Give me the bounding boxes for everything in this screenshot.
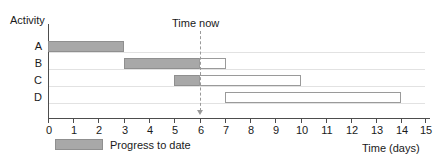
tick-mark-9 (275, 119, 276, 123)
task-bar-b-progress[interactable] (124, 58, 200, 69)
legend-swatch-progress (55, 139, 103, 150)
y-axis-line (48, 24, 49, 118)
tick-label-8: 8 (241, 124, 261, 136)
tick-mark-6 (200, 119, 201, 123)
tick-mark-2 (98, 119, 99, 123)
tick-label-0: 0 (39, 124, 59, 136)
grid-line-c (48, 86, 425, 87)
time-now-label: Time now (172, 17, 219, 29)
tick-mark-10 (301, 119, 302, 123)
task-bar-b-remaining[interactable] (199, 58, 226, 69)
x-axis-line (48, 118, 430, 119)
tick-label-3: 3 (115, 124, 135, 136)
category-label-d: D (24, 91, 42, 103)
tick-label-7: 7 (216, 124, 236, 136)
tick-label-15: 15 (416, 124, 436, 136)
grid-line-b (48, 69, 425, 70)
tick-label-11: 11 (317, 124, 337, 136)
gantt-chart: Activity A B C D Time now 0 1 2 3 4 5 6 (0, 0, 446, 158)
legend-label-progress: Progress to date (110, 139, 191, 151)
tick-label-4: 4 (140, 124, 160, 136)
tick-label-13: 13 (367, 124, 387, 136)
task-bar-c-progress[interactable] (174, 75, 200, 86)
tick-label-6: 6 (191, 124, 211, 136)
tick-mark-12 (351, 119, 352, 123)
tick-label-1: 1 (64, 124, 84, 136)
tick-label-14: 14 (392, 124, 412, 136)
task-bar-c-remaining[interactable] (199, 75, 301, 86)
tick-mark-3 (124, 119, 125, 123)
tick-label-5: 5 (165, 124, 185, 136)
tick-mark-0 (48, 119, 49, 123)
tick-label-10: 10 (292, 124, 312, 136)
time-now-arrow-icon (197, 110, 203, 115)
tick-mark-4 (149, 119, 150, 123)
category-label-c: C (24, 74, 42, 86)
tick-mark-14 (401, 119, 402, 123)
task-bar-d-remaining[interactable] (225, 92, 401, 103)
tick-mark-7 (225, 119, 226, 123)
tick-label-12: 12 (342, 124, 362, 136)
y-axis-title: Activity (10, 14, 45, 26)
category-label-a: A (24, 40, 42, 52)
tick-mark-5 (174, 119, 175, 123)
x-axis-title: Time (days) (362, 142, 420, 154)
task-bar-a-progress[interactable] (48, 41, 124, 52)
tick-mark-1 (73, 119, 74, 123)
tick-label-9: 9 (266, 124, 286, 136)
tick-label-2: 2 (89, 124, 109, 136)
tick-mark-13 (376, 119, 377, 123)
grid-line-d (48, 103, 425, 104)
time-now-line (200, 31, 201, 111)
tick-mark-15 (425, 119, 426, 123)
tick-mark-11 (326, 119, 327, 123)
category-label-b: B (24, 57, 42, 69)
tick-mark-8 (250, 119, 251, 123)
grid-line-a (48, 52, 425, 53)
